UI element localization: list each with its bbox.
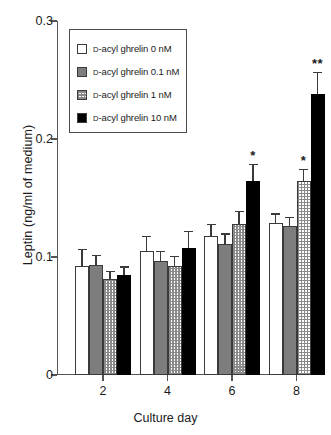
error-bar	[252, 164, 253, 182]
error-bar	[224, 233, 225, 244]
error-bar-cap	[235, 211, 244, 212]
x-tick-label: 6	[229, 384, 236, 398]
bar	[75, 266, 89, 375]
error-bar	[275, 213, 276, 222]
x-tick-label: 4	[164, 384, 171, 398]
error-bar-cap	[156, 251, 165, 252]
x-tick-mark	[167, 375, 168, 381]
error-bar-cap	[184, 231, 193, 232]
bar	[117, 275, 131, 375]
error-bar-cap	[170, 256, 179, 257]
significance-marker: *	[250, 149, 256, 162]
bar	[232, 224, 246, 375]
error-bar-cap	[285, 217, 294, 218]
bar	[103, 279, 117, 375]
error-bar	[174, 256, 175, 267]
bar	[311, 94, 325, 375]
bar	[218, 244, 232, 375]
error-bar	[160, 251, 161, 260]
error-bar-cap	[78, 249, 87, 250]
error-bar-cap	[313, 72, 322, 73]
legend-label: D-acyl ghrelin 10 nM	[93, 112, 177, 123]
bar	[140, 251, 154, 375]
error-bar	[81, 249, 82, 267]
error-bar-cap	[221, 233, 230, 234]
error-bar	[303, 169, 304, 182]
y-axis-label: Leptin (ng/ml of medium)	[21, 75, 35, 315]
error-bar	[210, 224, 211, 236]
x-axis-label: Culture day	[0, 411, 331, 425]
legend-swatch	[77, 44, 87, 54]
bar	[168, 266, 182, 375]
error-bar-cap	[142, 236, 151, 237]
legend-swatch	[77, 67, 87, 77]
y-tick-label: 0.2	[36, 132, 53, 146]
error-bar	[238, 211, 239, 224]
bar	[182, 248, 196, 375]
bar	[297, 181, 311, 375]
error-bar-cap	[271, 213, 280, 214]
y-tick-label: 0.1	[36, 250, 53, 264]
error-bar	[109, 271, 110, 279]
legend-item: D-acyl ghrelin 1 nM	[77, 83, 180, 106]
legend-item: D-acyl ghrelin 0.1 nM	[77, 60, 180, 83]
error-bar	[317, 72, 318, 94]
bar	[269, 223, 283, 375]
x-tick-mark	[102, 375, 103, 381]
error-bar-cap	[92, 255, 101, 256]
legend-label: D-acyl ghrelin 1 nM	[93, 89, 172, 100]
bar	[89, 265, 103, 375]
error-bar	[188, 231, 189, 248]
error-bar-cap	[299, 169, 308, 170]
bar	[154, 261, 168, 375]
y-axis-line	[57, 21, 58, 375]
legend-swatch	[77, 113, 87, 123]
bar	[204, 236, 218, 375]
bar	[283, 226, 297, 375]
error-bar	[123, 266, 124, 274]
y-tick-label: 0	[46, 368, 53, 382]
y-tick-label: 0.3	[36, 14, 53, 28]
error-bar-cap	[120, 266, 129, 267]
significance-marker: **	[312, 57, 323, 70]
legend-label: D-acyl ghrelin 0.1 nM	[93, 66, 179, 77]
error-bar	[289, 217, 290, 226]
significance-marker: *	[301, 154, 307, 167]
leptin-ghrelin-bar-chart: Leptin (ng/ml of medium) Culture day 00.…	[0, 0, 331, 435]
legend: D-acyl ghrelin 0 nMD-acyl ghrelin 0.1 nM…	[69, 29, 187, 133]
legend-label: D-acyl ghrelin 0 nM	[93, 43, 172, 54]
bar	[246, 181, 260, 375]
x-tick-label: 8	[293, 384, 300, 398]
error-bar-cap	[207, 224, 216, 225]
legend-item: D-acyl ghrelin 10 nM	[77, 106, 180, 129]
x-tick-mark	[296, 375, 297, 381]
error-bar	[146, 236, 147, 251]
error-bar	[95, 255, 96, 266]
error-bar-cap	[249, 164, 258, 165]
legend-swatch	[77, 90, 87, 100]
error-bar-cap	[106, 271, 115, 272]
legend-item: D-acyl ghrelin 0 nM	[77, 37, 180, 60]
x-tick-mark	[231, 375, 232, 381]
x-tick-label: 2	[100, 384, 107, 398]
